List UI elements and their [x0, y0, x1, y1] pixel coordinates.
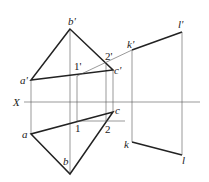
projection-diagram: X b' a' c' 1' 2' k' l' a b c 1 2 k l	[0, 0, 209, 182]
triangle-front-view	[31, 29, 113, 80]
label-2: 2	[105, 123, 111, 135]
line-kl-top	[132, 142, 182, 155]
label-a: a	[22, 128, 28, 140]
label-k-prime: k'	[127, 38, 135, 50]
label-b-prime: b'	[68, 15, 77, 27]
label-1: 1	[75, 122, 81, 134]
label-k: k	[124, 138, 130, 150]
line-kl-front	[132, 32, 182, 50]
label-a-prime: a'	[20, 74, 29, 86]
label-l: l	[182, 154, 185, 166]
label-l-prime: l'	[178, 18, 184, 30]
label-1-prime: 1'	[74, 60, 82, 72]
label-b: b	[63, 155, 69, 167]
label-x-axis: X	[12, 96, 21, 108]
triangle-top-view	[31, 112, 113, 174]
label-2-prime: 2'	[105, 50, 113, 62]
label-c: c	[115, 104, 120, 116]
label-c-prime: c'	[114, 64, 122, 76]
